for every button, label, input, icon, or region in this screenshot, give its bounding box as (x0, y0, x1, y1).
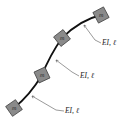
mass-label: m (60, 35, 65, 41)
mass-rod-diagram: m m m m EI, ℓ EI, ℓ EI, ℓ (0, 0, 123, 126)
leader-line-2 (56, 60, 79, 76)
segment-label-1: EI, ℓ (101, 38, 117, 47)
mass-3: m (34, 67, 50, 83)
mass-label: m (40, 72, 45, 78)
segment-label-3: EI, ℓ (64, 106, 80, 115)
leader-line-1 (84, 25, 101, 43)
mass-label: m (12, 105, 17, 111)
mass-1: m (93, 7, 109, 23)
leader-line-3 (32, 96, 64, 111)
segment-label-2: EI, ℓ (79, 71, 95, 80)
mass-label: m (99, 12, 104, 18)
